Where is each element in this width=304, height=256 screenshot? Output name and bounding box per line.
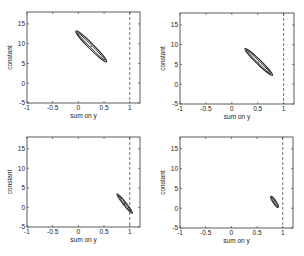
axes-box bbox=[27, 137, 140, 227]
y-tick-label: 10 bbox=[18, 40, 26, 47]
x-tick-label: 0.5 bbox=[100, 104, 109, 111]
x-axis-label: sum on y bbox=[223, 237, 250, 245]
y-tick-label: 0 bbox=[174, 205, 178, 212]
subplot-3: -1-0.500.51-5051015sum on yconstant bbox=[6, 137, 140, 244]
y-tick-label: 15 bbox=[18, 145, 26, 152]
y-tick-label: 5 bbox=[174, 61, 178, 68]
y-tick-label: -5 bbox=[19, 99, 25, 106]
axes-box bbox=[180, 13, 294, 104]
y-tick-label: 10 bbox=[171, 165, 179, 172]
y-tick-label: 15 bbox=[171, 21, 179, 28]
x-tick-label: -0.5 bbox=[47, 104, 59, 111]
axes-box bbox=[180, 137, 293, 228]
axes-box bbox=[27, 12, 140, 103]
x-axis-label: sum on y bbox=[224, 113, 251, 121]
y-tick-label: 15 bbox=[171, 145, 179, 152]
x-tick-label: -1 bbox=[177, 105, 183, 112]
y-axis-label: constant bbox=[159, 170, 166, 195]
x-tick-label: 1 bbox=[128, 228, 132, 235]
x-tick-label: 0 bbox=[77, 228, 81, 235]
y-tick-label: 5 bbox=[21, 184, 25, 191]
x-tick-label: 1 bbox=[128, 104, 132, 111]
subplot-2: -1-0.500.51-5051015sum on yconstant bbox=[159, 13, 294, 121]
x-tick-label: 1 bbox=[282, 105, 286, 112]
x-axis-label: sum on y bbox=[70, 236, 97, 244]
subplot-4: -1-0.500.51-5051015sum on yconstant bbox=[159, 137, 293, 245]
y-tick-label: 5 bbox=[21, 60, 25, 67]
y-axis-label: constant bbox=[6, 170, 13, 195]
y-tick-label: 10 bbox=[171, 41, 179, 48]
x-tick-label: 0.5 bbox=[253, 229, 262, 236]
x-tick-label: -1 bbox=[177, 229, 183, 236]
y-tick-label: -5 bbox=[19, 223, 25, 230]
x-tick-label: 0 bbox=[77, 104, 81, 111]
x-tick-label: 0.5 bbox=[100, 228, 109, 235]
x-axis-label: sum on y bbox=[70, 112, 97, 120]
x-tick-label: 1 bbox=[281, 229, 285, 236]
y-tick-label: -5 bbox=[172, 100, 178, 107]
x-tick-label: 0.5 bbox=[253, 105, 262, 112]
center-marker bbox=[124, 203, 125, 204]
x-tick-label: 0 bbox=[230, 105, 234, 112]
y-tick-label: 0 bbox=[174, 81, 178, 88]
y-axis-label: constant bbox=[159, 46, 166, 71]
center-marker bbox=[91, 46, 92, 47]
y-tick-label: -5 bbox=[172, 224, 178, 231]
x-tick-label: -0.5 bbox=[47, 228, 59, 235]
y-tick-label: 5 bbox=[174, 185, 178, 192]
x-tick-label: -0.5 bbox=[200, 105, 212, 112]
x-tick-label: 0 bbox=[230, 229, 234, 236]
center-marker bbox=[258, 61, 259, 62]
y-tick-label: 15 bbox=[18, 20, 26, 27]
subplot-1: -1-0.500.51-5051015sum on yconstant bbox=[6, 12, 140, 120]
x-tick-label: -1 bbox=[24, 104, 30, 111]
y-tick-label: 0 bbox=[21, 80, 25, 87]
figure-2x2-confidence-ellipses: -1-0.500.51-5051015sum on yconstant-1-0.… bbox=[0, 0, 304, 256]
y-axis-label: constant bbox=[6, 45, 13, 70]
y-tick-label: 0 bbox=[21, 204, 25, 211]
x-tick-label: -1 bbox=[24, 228, 30, 235]
x-tick-label: -0.5 bbox=[200, 229, 212, 236]
y-tick-label: 10 bbox=[18, 165, 26, 172]
